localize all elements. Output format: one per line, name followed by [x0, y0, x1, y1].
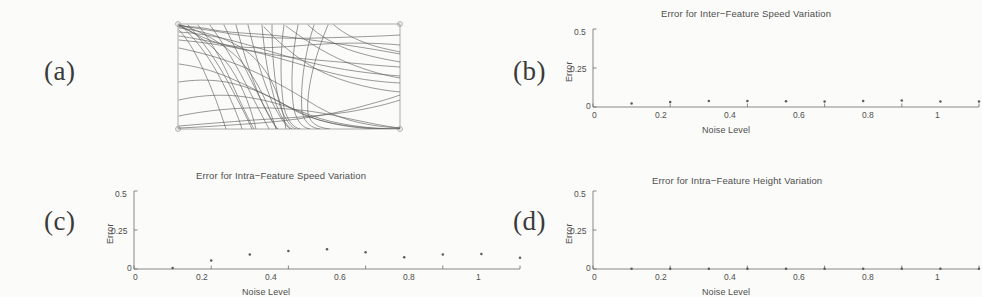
- panel-b: (b) Error for Inter−Feature Speed Variat…: [491, 0, 982, 150]
- data-point: [708, 267, 711, 270]
- data-point: [978, 100, 981, 103]
- panel-d-ytick-0.5: 0.5: [574, 189, 586, 199]
- panel-c-xlabel: Noise Level: [242, 287, 290, 297]
- panel-b-title: Error for Inter−Feature Speed Variation: [661, 8, 831, 19]
- panel-c-label: (c): [44, 206, 75, 237]
- data-point: [746, 267, 749, 270]
- data-points: [630, 99, 980, 105]
- data-point: [862, 100, 865, 103]
- data-point: [630, 102, 633, 105]
- data-point: [171, 267, 174, 270]
- axes: [134, 191, 520, 269]
- axes: [593, 191, 979, 269]
- panel-d-xlabel: Noise Level: [702, 287, 750, 297]
- panel-b-xlabel: Noise Level: [702, 125, 750, 135]
- data-point: [287, 250, 290, 253]
- data-point: [823, 100, 826, 103]
- data-point: [939, 267, 942, 270]
- axes: [593, 29, 979, 107]
- data-point: [249, 253, 252, 256]
- data-point: [862, 267, 865, 270]
- trajectory-curves: [179, 25, 400, 129]
- panel-c-plot: [132, 185, 522, 275]
- data-point: [326, 248, 329, 251]
- panel-d: (d) Error for Intra−Feature Height Varia…: [491, 150, 982, 297]
- panel-b-label: (b): [513, 56, 546, 87]
- data-point: [403, 256, 406, 259]
- panel-c-title: Error for Intra−Feature Speed Variation: [196, 170, 366, 181]
- data-point: [442, 253, 445, 256]
- data-point: [901, 99, 904, 102]
- data-points: [171, 248, 521, 269]
- data-point: [630, 267, 633, 270]
- data-point: [364, 251, 367, 254]
- panel-b-plot: [591, 23, 981, 113]
- data-point: [480, 253, 483, 256]
- panel-a: (a): [0, 0, 491, 150]
- data-point: [746, 100, 749, 103]
- data-point: [901, 267, 904, 270]
- data-point: [978, 267, 981, 270]
- panel-c-ytick-0.5: 0.5: [115, 189, 127, 199]
- panel-d-plot: [591, 185, 981, 275]
- panel-b-ytick-0.5: 0.5: [574, 27, 586, 37]
- panel-b-ytick-0.25: 0.25: [570, 64, 587, 74]
- data-point: [669, 267, 672, 270]
- trajectory-plot: [168, 12, 408, 142]
- panel-a-label: (a): [44, 56, 75, 87]
- panel-d-ytick-0.25: 0.25: [570, 226, 587, 236]
- data-point: [669, 101, 672, 104]
- data-point: [210, 259, 213, 262]
- data-point: [708, 100, 711, 103]
- data-point: [785, 100, 788, 103]
- data-point: [823, 267, 826, 270]
- data-point: [785, 267, 788, 270]
- panel-c: (c) Error for Intra−Feature Speed Variat…: [0, 150, 491, 297]
- panel-c-ytick-0.25: 0.25: [111, 226, 128, 236]
- panel-d-label: (d): [513, 206, 546, 237]
- data-point: [939, 100, 942, 103]
